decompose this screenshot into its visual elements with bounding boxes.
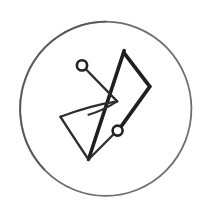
scanned-sketch-image [0,0,210,217]
node-b-circle [113,126,123,136]
node-a-circle [77,60,87,70]
thick-flag-edges [121,52,150,126]
hand-drawn-emblem [0,0,210,217]
triangle-left-edge [61,117,89,160]
